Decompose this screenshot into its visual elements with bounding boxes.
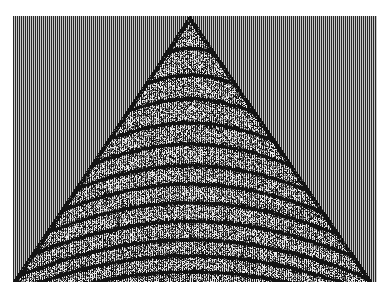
seismic-plot: [13, 16, 377, 282]
seismic-gather-canvas: [13, 16, 377, 282]
